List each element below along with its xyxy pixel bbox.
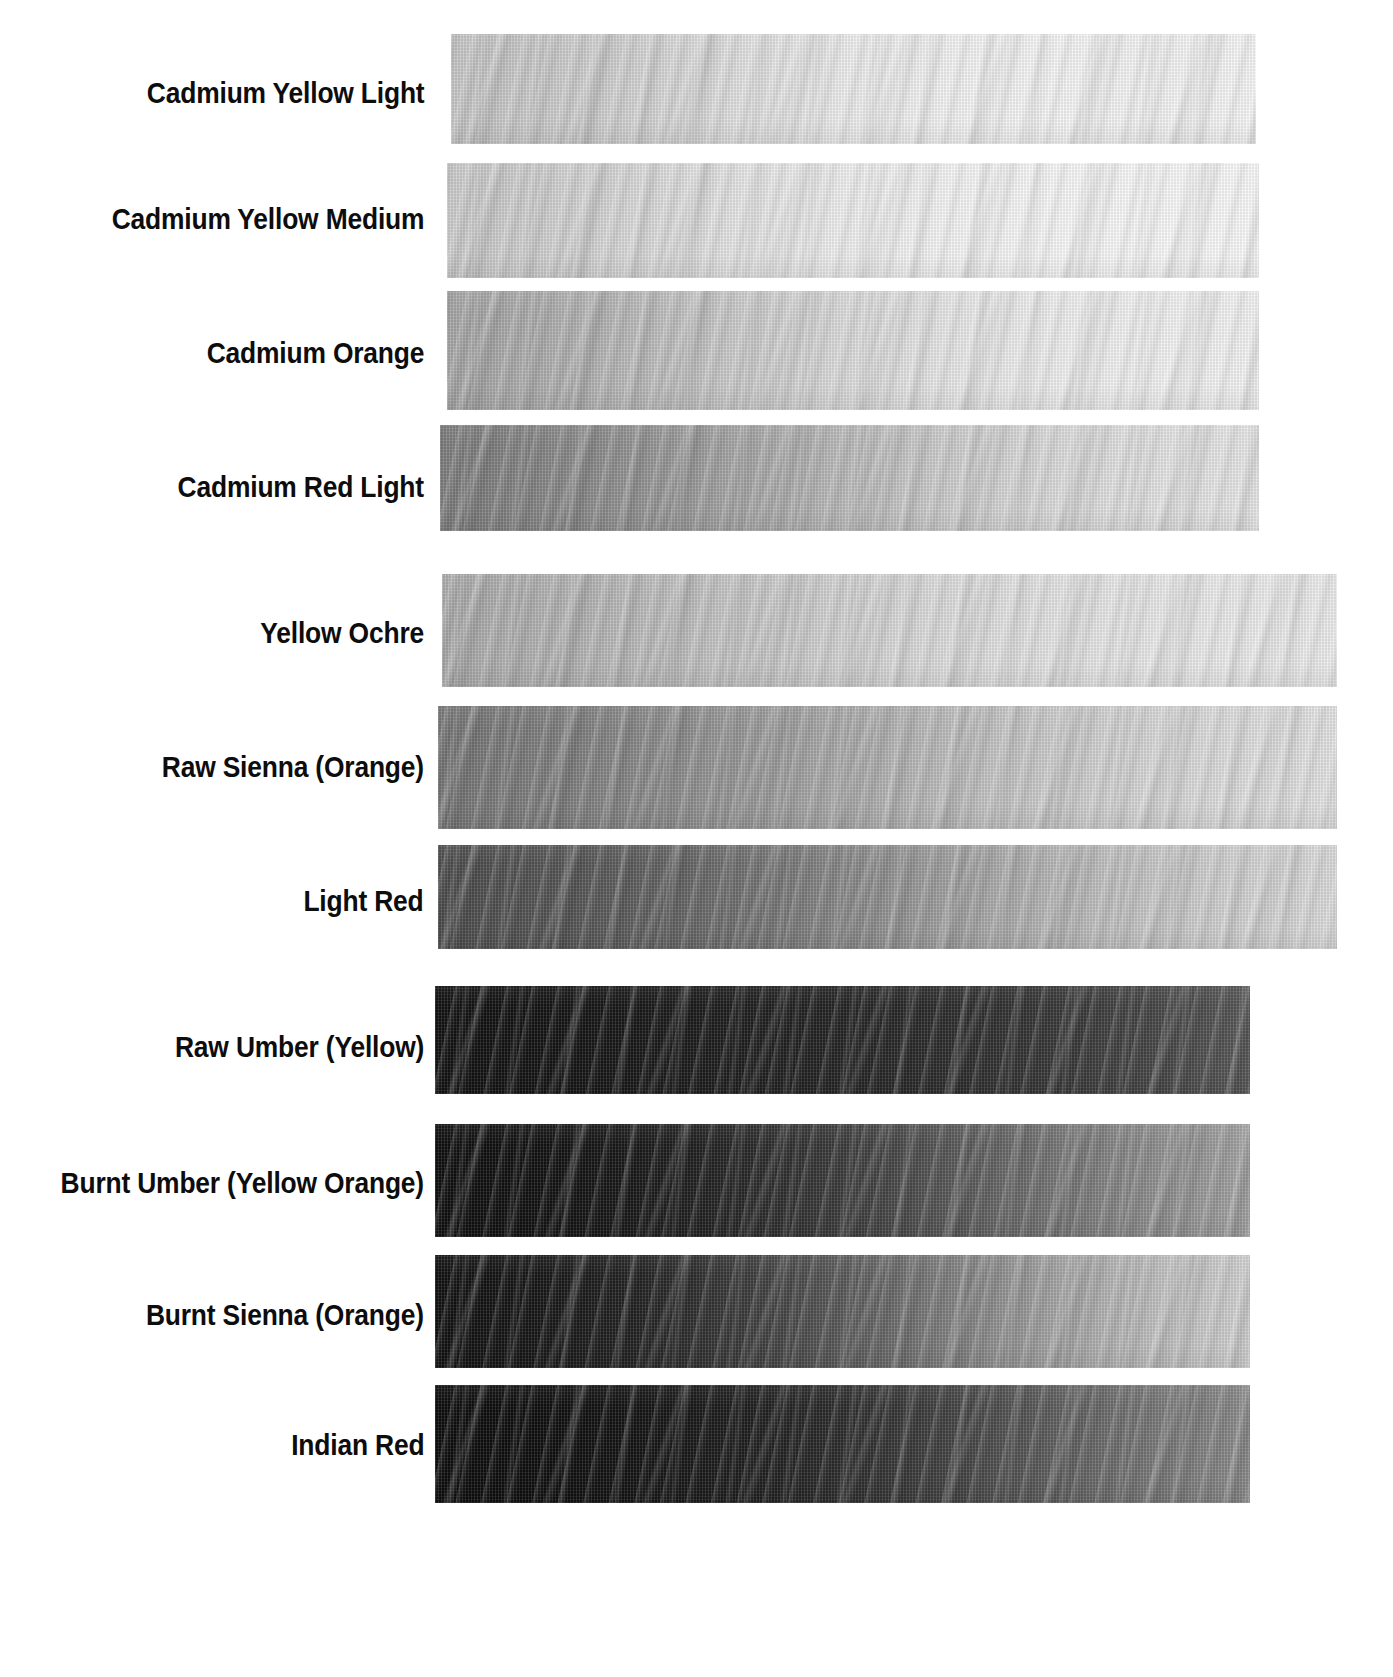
pigment-label: Burnt Umber (Yellow Orange) bbox=[61, 1168, 424, 1198]
pigment-label: Cadmium Red Light bbox=[178, 472, 424, 502]
pigment-gradient-swatch bbox=[438, 706, 1337, 829]
swatch-gradient-fill bbox=[442, 574, 1337, 687]
pigment-label: Cadmium Yellow Light bbox=[146, 78, 424, 108]
pigment-value-chart-page: Cadmium Yellow LightCadmium Yellow Mediu… bbox=[0, 0, 1393, 1677]
swatch-gradient-fill bbox=[451, 34, 1256, 144]
pigment-label: Light Red bbox=[304, 886, 424, 916]
pigment-label: Yellow Ochre bbox=[260, 618, 424, 648]
swatch-gradient-fill bbox=[435, 1255, 1250, 1368]
swatch-gradient-fill bbox=[438, 706, 1337, 829]
pigment-label: Cadmium Yellow Medium bbox=[111, 204, 424, 234]
pigment-label: Raw Umber (Yellow) bbox=[175, 1032, 424, 1062]
swatch-gradient-fill bbox=[447, 291, 1259, 410]
swatch-gradient-fill bbox=[435, 1385, 1250, 1503]
swatch-gradient-fill bbox=[435, 1124, 1250, 1237]
pigment-label: Indian Red bbox=[291, 1430, 424, 1460]
swatch-gradient-fill bbox=[440, 425, 1259, 531]
pigment-gradient-swatch bbox=[435, 1385, 1250, 1503]
swatch-gradient-fill bbox=[447, 163, 1259, 278]
pigment-gradient-swatch bbox=[435, 1124, 1250, 1237]
pigment-label: Cadmium Orange bbox=[206, 338, 424, 368]
pigment-gradient-swatch bbox=[435, 1255, 1250, 1368]
swatch-gradient-fill bbox=[435, 986, 1250, 1094]
pigment-gradient-swatch bbox=[440, 425, 1259, 531]
pigment-gradient-swatch bbox=[451, 34, 1256, 144]
pigment-gradient-swatch bbox=[447, 291, 1259, 410]
pigment-gradient-swatch bbox=[435, 986, 1250, 1094]
pigment-gradient-swatch bbox=[438, 845, 1337, 949]
pigment-gradient-swatch bbox=[442, 574, 1337, 687]
pigment-gradient-swatch bbox=[447, 163, 1259, 278]
pigment-label: Burnt Sienna (Orange) bbox=[146, 1300, 424, 1330]
pigment-label: Raw Sienna (Orange) bbox=[162, 752, 424, 782]
swatch-gradient-fill bbox=[438, 845, 1337, 949]
